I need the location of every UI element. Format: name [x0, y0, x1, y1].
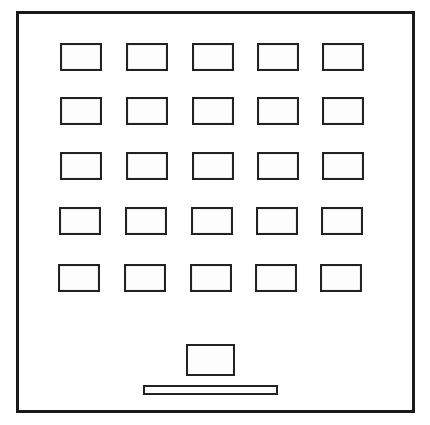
- brick: [124, 264, 166, 292]
- brick: [322, 152, 364, 180]
- brick: [257, 152, 299, 180]
- brick: [192, 97, 234, 125]
- brick: [322, 97, 364, 125]
- brick: [60, 97, 102, 125]
- brick: [58, 264, 100, 292]
- brick: [192, 43, 234, 71]
- brick: [256, 207, 298, 235]
- brick: [126, 43, 168, 71]
- brick: [125, 207, 167, 235]
- brick: [321, 207, 363, 235]
- paddle[interactable]: [143, 385, 278, 395]
- brick: [191, 207, 233, 235]
- brick: [126, 97, 168, 125]
- brick: [60, 43, 102, 71]
- brick: [322, 43, 364, 71]
- brick: [257, 97, 299, 125]
- ball-block: [186, 344, 235, 376]
- brick: [192, 152, 234, 180]
- brick: [257, 43, 299, 71]
- brick: [60, 152, 102, 180]
- brick: [190, 264, 232, 292]
- brick: [126, 152, 168, 180]
- brick: [320, 264, 362, 292]
- brick: [255, 264, 297, 292]
- brick: [59, 207, 101, 235]
